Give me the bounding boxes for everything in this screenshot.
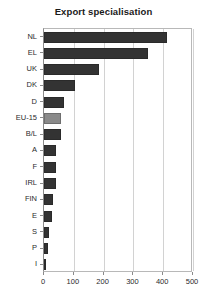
y-axis-label-eu-15: EU-15: [16, 109, 37, 125]
y-axis-label-fin: FIN: [25, 191, 37, 207]
bar-i[interactable]: [44, 259, 46, 270]
x-axis-label-0: 0: [41, 277, 45, 286]
x-axis-label-200: 200: [96, 277, 109, 286]
bar-row: [44, 143, 56, 159]
chart-title: Export specialisation: [0, 6, 207, 17]
bar-b-l[interactable]: [44, 129, 61, 140]
bar-row: [44, 159, 56, 175]
x-axis-tick-500: [192, 272, 193, 275]
bar-row: [44, 240, 48, 256]
x-axis-tick-400: [162, 272, 163, 275]
bar-fin[interactable]: [44, 194, 53, 205]
x-axis-label-100: 100: [67, 277, 80, 286]
bar-row: [44, 257, 46, 273]
bar-d[interactable]: [44, 97, 64, 108]
x-axis-label-400: 400: [156, 277, 169, 286]
bar-f[interactable]: [44, 162, 56, 173]
bar-row: [44, 192, 53, 208]
y-axis-label-e: E: [32, 207, 37, 223]
y-axis-label-p: P: [32, 239, 37, 255]
bar-uk[interactable]: [44, 64, 99, 75]
bar-row: [44, 62, 99, 78]
x-axis-label-300: 300: [126, 277, 139, 286]
y-axis-label-nl: NL: [27, 28, 37, 44]
bar-row: [44, 208, 52, 224]
plot-area: [43, 28, 192, 272]
bar-row: [44, 94, 64, 110]
bar-e[interactable]: [44, 211, 52, 222]
export-specialisation-chart: Export specialisation NLELUKDKDEU-15B/LA…: [0, 0, 207, 307]
bar-dk[interactable]: [44, 80, 75, 91]
bar-row: [44, 224, 49, 240]
y-axis-label-a: A: [32, 142, 37, 158]
x-axis-tick-100: [73, 272, 74, 275]
y-axis-label-b-l: B/L: [26, 126, 37, 142]
y-axis-label-i: I: [35, 256, 37, 272]
y-axis-label-irl: IRL: [25, 174, 37, 190]
y-axis-label-s: S: [32, 223, 37, 239]
bar-nl[interactable]: [44, 32, 167, 43]
bar-row: [44, 110, 61, 126]
bars-layer: [44, 29, 191, 271]
y-axis-label-f: F: [32, 158, 37, 174]
bar-row: [44, 45, 148, 61]
bar-eu-15[interactable]: [44, 113, 61, 124]
y-axis-label-dk: DK: [27, 77, 37, 93]
x-axis-tick-0: [43, 272, 44, 275]
x-axis-tick-300: [132, 272, 133, 275]
bar-s[interactable]: [44, 227, 49, 238]
y-axis-label-uk: UK: [27, 61, 37, 77]
gridline-500: [193, 29, 194, 271]
bar-p[interactable]: [44, 243, 48, 254]
x-axis-tick-200: [103, 272, 104, 275]
bar-row: [44, 29, 167, 45]
bar-row: [44, 78, 75, 94]
y-axis-labels: NLELUKDKDEU-15B/LAFIRLFINESPI: [0, 28, 40, 272]
bar-irl[interactable]: [44, 178, 56, 189]
bar-row: [44, 127, 61, 143]
bar-row: [44, 175, 56, 191]
x-axis-label-500: 500: [186, 277, 199, 286]
y-axis-label-d: D: [32, 93, 37, 109]
x-axis: 0100200300400500: [43, 272, 192, 296]
bar-el[interactable]: [44, 48, 148, 59]
y-axis-label-el: EL: [28, 44, 37, 60]
bar-a[interactable]: [44, 145, 56, 156]
